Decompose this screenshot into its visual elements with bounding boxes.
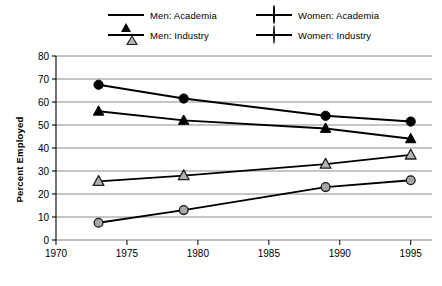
circle-filled-icon — [273, 6, 275, 24]
svg-text:1985: 1985 — [258, 248, 281, 259]
svg-text:1980: 1980 — [187, 248, 210, 259]
svg-text:1990: 1990 — [329, 248, 352, 259]
legend-swatch-men-industry — [108, 28, 144, 42]
legend-swatch-women-industry — [256, 28, 292, 42]
legend-label-women-academia: Women: Academia — [298, 10, 379, 21]
legend-label-men-industry: Men: Industry — [150, 30, 209, 41]
svg-text:50: 50 — [38, 120, 50, 131]
triangle-filled-icon — [121, 6, 131, 24]
circle-gray-icon — [273, 26, 275, 44]
legend-item-men-academia[interactable]: Men: Academia — [108, 7, 217, 23]
svg-text:1995: 1995 — [400, 248, 423, 259]
svg-text:60: 60 — [38, 97, 50, 108]
x-axis — [56, 240, 411, 245]
svg-text:30: 30 — [38, 166, 50, 177]
svg-text:1975: 1975 — [116, 248, 139, 259]
svg-text:80: 80 — [38, 51, 50, 62]
legend-label-men-academia: Men: Academia — [150, 10, 217, 21]
series-lines — [99, 85, 411, 223]
chart-container: Men: Academia Women: Academia — [0, 0, 442, 286]
plot-area: Percent Employed 01020304050607080197019… — [0, 46, 442, 286]
legend-item-women-academia[interactable]: Women: Academia — [256, 7, 379, 23]
legend-swatch-women-academia — [256, 8, 292, 22]
legend-item-men-industry[interactable]: Men: Industry — [108, 27, 209, 43]
legend-label-women-industry: Women: Industry — [298, 30, 371, 41]
svg-text:20: 20 — [38, 189, 50, 200]
legend-swatch-men-academia — [108, 8, 144, 22]
svg-text:70: 70 — [38, 74, 50, 85]
y-axis — [52, 56, 56, 240]
svg-text:10: 10 — [38, 212, 50, 223]
svg-text:40: 40 — [38, 143, 50, 154]
chart-legend: Men: Academia Women: Academia — [108, 6, 408, 46]
grid-lines — [56, 56, 432, 240]
legend-item-women-industry[interactable]: Women: Industry — [256, 27, 371, 43]
svg-text:1970: 1970 — [45, 248, 68, 259]
svg-text:0: 0 — [43, 235, 49, 246]
plot-svg: 0102030405060708019701975198019851990199… — [0, 46, 442, 286]
